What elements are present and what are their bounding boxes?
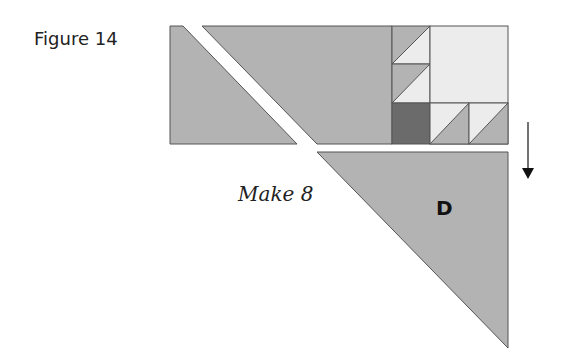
dark-square — [392, 103, 430, 144]
light-square — [430, 26, 508, 103]
hst-column — [392, 26, 430, 144]
arrow-down-icon — [522, 122, 534, 179]
quilt-cutting-diagram — [0, 0, 562, 357]
triangle-d — [317, 152, 508, 348]
hst-row — [430, 103, 508, 144]
piece-label-d: D — [436, 196, 453, 220]
